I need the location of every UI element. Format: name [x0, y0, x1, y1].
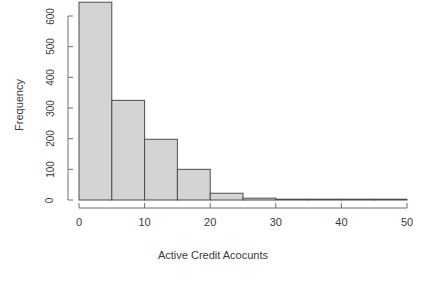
histogram-bar	[145, 139, 178, 200]
x-tick-label: 20	[190, 216, 230, 228]
histogram-bar	[79, 2, 112, 200]
x-tick-label: 50	[387, 216, 426, 228]
x-tick-label: 30	[256, 216, 296, 228]
histogram-bar	[243, 198, 276, 200]
y-tick-label-text: 500	[45, 38, 56, 55]
histogram-bar	[341, 199, 374, 200]
y-tick-label: 600	[38, 8, 62, 24]
histogram-bar	[177, 169, 210, 200]
histogram-bar	[309, 199, 342, 200]
y-tick-label: 500	[38, 39, 62, 55]
y-tick-label: 200	[38, 131, 62, 147]
y-tick-label: 400	[38, 69, 62, 85]
bars-group	[79, 2, 407, 200]
plot-canvas	[0, 0, 426, 281]
y-tick-label-text: 0	[45, 197, 56, 203]
y-tick-label: 100	[38, 161, 62, 177]
y-tick-label: 0	[38, 192, 62, 208]
x-tick-label: 40	[321, 216, 361, 228]
y-tick-label: 300	[38, 100, 62, 116]
histogram-bar	[210, 193, 243, 200]
y-tick-label-text: 100	[45, 161, 56, 178]
x-tick-label: 0	[59, 216, 99, 228]
y-tick-label-text: 600	[45, 8, 56, 25]
y-tick-label-text: 200	[45, 130, 56, 147]
y-axis	[68, 16, 73, 200]
histogram-bar	[276, 199, 309, 200]
x-axis	[79, 203, 407, 208]
y-tick-label-text: 400	[45, 69, 56, 86]
histogram-bar	[112, 100, 145, 200]
histogram-figure: Frequency Active Credit Acocunts 0100200…	[0, 0, 426, 281]
y-tick-label-text: 300	[45, 100, 56, 117]
x-tick-label: 10	[125, 216, 165, 228]
histogram-bar	[374, 199, 407, 200]
